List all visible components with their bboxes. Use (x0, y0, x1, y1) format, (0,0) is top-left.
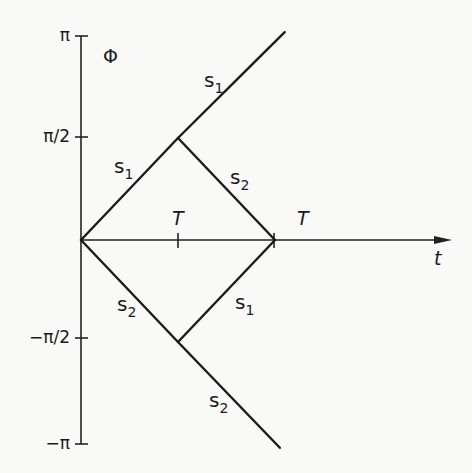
tick-label-neg-pi-half: −π/2 (0, 327, 70, 347)
t-axis-label: t (434, 247, 441, 269)
tick-label-pi: π (0, 25, 70, 45)
t-axis-arrowhead (434, 236, 452, 244)
segment-label-s1-recover: s1 (235, 290, 254, 318)
segment-label-s2-lower-ray: s2 (209, 388, 228, 416)
tick-label-neg-pi: −π (0, 433, 70, 453)
segment-s2-fall (178, 138, 275, 240)
tick-label-T2: T (297, 207, 309, 229)
segment-label-s2-descent: s2 (117, 292, 136, 320)
segment-s1-upper-ray (178, 32, 285, 138)
segment-s1-recover (178, 240, 275, 342)
tick-label-pi-half: π/2 (0, 126, 70, 146)
segment-label-s1-rise: s1 (114, 154, 133, 182)
segment-s2-descent (81, 240, 178, 342)
tick-label-T1: T (172, 207, 184, 229)
phase-diagram (0, 0, 472, 473)
segment-label-s2-fall: s2 (230, 165, 249, 193)
phi-axis-label: Φ (103, 45, 118, 67)
segment-s2-lower-ray (178, 342, 280, 448)
segment-label-s1-upper-ray: s1 (204, 68, 223, 96)
